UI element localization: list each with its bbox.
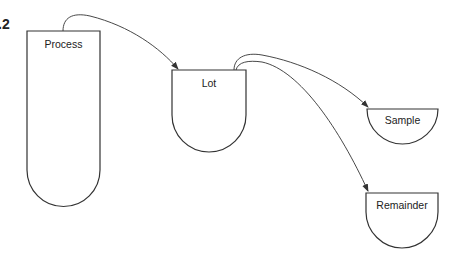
process-node-shape[interactable] — [27, 31, 100, 207]
edge-lot-to-sample — [234, 54, 368, 107]
edge-lot-to-remainder — [236, 61, 368, 191]
sample-node-label: Sample — [367, 114, 438, 126]
lot-node-label: Lot — [172, 77, 246, 89]
remainder-node-label: Remainder — [366, 199, 438, 211]
process-node-label: Process — [27, 38, 100, 50]
